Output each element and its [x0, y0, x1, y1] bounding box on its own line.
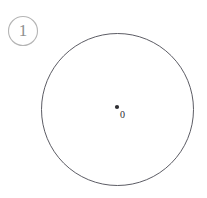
center-point-dot [115, 105, 119, 109]
figure-background [0, 0, 207, 198]
center-point-label: 0 [120, 109, 125, 120]
geometry-figure-canvas: 1 0 [0, 0, 207, 198]
figure-number-badge-label: 1 [19, 21, 28, 40]
